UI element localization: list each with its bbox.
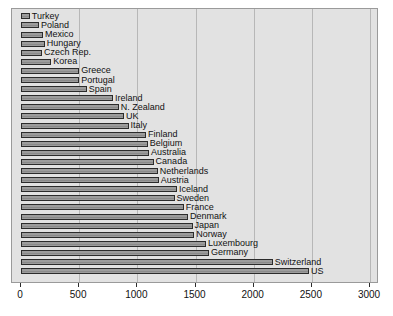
x-axis-tick-label: 3000 [358, 289, 380, 301]
x-axis-tick-label: 2000 [242, 289, 264, 301]
x-axis-tick [136, 283, 137, 287]
bar [21, 13, 30, 19]
bar-label: Spain [88, 84, 112, 94]
bar-row: Greece [12, 67, 377, 76]
bar [21, 195, 175, 201]
bar-row: Netherlands [12, 167, 377, 176]
bar [21, 186, 177, 192]
bar [21, 250, 209, 256]
bar-row: Portugal [12, 76, 377, 85]
bar-row: Ireland [12, 94, 377, 103]
bar [21, 168, 158, 174]
bar [21, 268, 309, 274]
bar [21, 41, 45, 47]
bar [21, 259, 273, 265]
bar [21, 95, 113, 101]
bar-row: Korea [12, 58, 377, 67]
bar-chart: TurkeyPolandMexicoHungaryCzech Rep.Korea… [0, 0, 393, 316]
x-axis-tick-label: 500 [70, 289, 87, 301]
bar [21, 150, 149, 156]
bar [21, 59, 51, 65]
x-axis-tick-label: 0 [17, 289, 23, 301]
bar-row: UK [12, 112, 377, 121]
x-axis-tick-label: 1500 [183, 289, 205, 301]
x-axis-tick [20, 283, 21, 287]
bar-row: N. Zealand [12, 103, 377, 112]
x-axis-tick [253, 283, 254, 287]
x-axis-tick-label: 2500 [300, 289, 322, 301]
bar-row: Italy [12, 121, 377, 130]
bar [21, 141, 148, 147]
bar [21, 113, 124, 119]
x-axis-tick-label: 1000 [125, 289, 147, 301]
bar-row: Germany [12, 249, 377, 258]
x-axis-tick [311, 283, 312, 287]
bar-row: Belgium [12, 139, 377, 148]
bar-row: Finland [12, 130, 377, 139]
plot-area: TurkeyPolandMexicoHungaryCzech Rep.Korea… [11, 8, 378, 283]
bar [21, 159, 154, 165]
bar-row: Australia [12, 149, 377, 158]
bar [21, 86, 87, 92]
x-axis-tick [195, 283, 196, 287]
bar-row: Norway [12, 230, 377, 239]
bar [21, 132, 146, 138]
bar-label: Italy [130, 120, 148, 130]
bar [21, 241, 206, 247]
x-axis-tick [369, 283, 370, 287]
bar-label: US [310, 266, 324, 276]
bars-container: TurkeyPolandMexicoHungaryCzech Rep.Korea… [12, 9, 377, 282]
bar [21, 32, 43, 38]
bar [21, 77, 79, 83]
bar [21, 50, 42, 56]
bar-row: Luxembourg [12, 240, 377, 249]
bar [21, 123, 129, 129]
bar-row: Spain [12, 85, 377, 94]
bar-row: US [12, 267, 377, 276]
bar-label: Korea [52, 56, 77, 66]
bar [21, 214, 188, 220]
bar [21, 223, 193, 229]
bar [21, 204, 184, 210]
x-axis-tick [78, 283, 79, 287]
bar [21, 22, 39, 28]
bar [21, 68, 79, 74]
bar-label: Germany [210, 247, 248, 257]
bar [21, 232, 194, 238]
bar [21, 104, 119, 110]
bar [21, 177, 159, 183]
